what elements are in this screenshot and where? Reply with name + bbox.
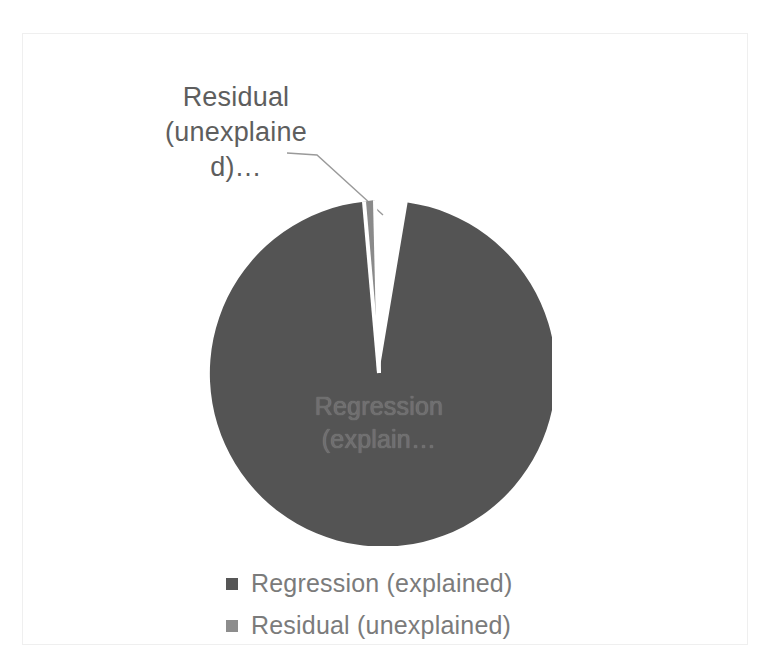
pie-callout-label-residual: Residual (unexplaine d)… <box>141 80 331 185</box>
pie-svg <box>206 200 552 546</box>
pie-chart[interactable] <box>206 200 552 546</box>
legend-item-label: Residual (unexplained) <box>251 610 511 640</box>
legend-swatch-icon <box>226 620 238 632</box>
legend-item-residual[interactable]: Residual (unexplained) <box>23 604 764 646</box>
chart-frame: Residual (unexplaine d)… Regression (exp… <box>22 33 748 645</box>
chart-legend: Regression (explained) Residual (unexpla… <box>23 562 764 646</box>
legend-item-label: Regression (explained) <box>251 568 512 598</box>
pie-slice-regression[interactable] <box>210 202 552 546</box>
legend-swatch-icon <box>226 578 238 590</box>
legend-item-regression[interactable]: Regression (explained) <box>23 562 764 604</box>
